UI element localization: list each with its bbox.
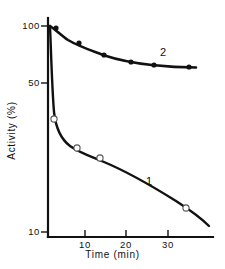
curve-2-line <box>50 26 196 68</box>
curve-1-point <box>97 155 103 161</box>
y-tick-label-100: 100 <box>8 20 40 31</box>
semilog-decay-chart: 100 50 10 10 20 30 Time (min) Activity (… <box>0 0 225 269</box>
curve-2-point <box>101 52 106 57</box>
curve-1-point <box>51 116 57 122</box>
curve-2-point <box>151 62 156 67</box>
curve-1-point <box>183 205 189 211</box>
curve-2-point <box>53 25 58 30</box>
curve-1-line <box>50 26 209 226</box>
curve-1-point <box>74 145 80 151</box>
curve-2-point <box>76 40 81 45</box>
curve-label-1: 1 <box>146 175 152 187</box>
y-tick-label-10: 10 <box>8 226 40 237</box>
curve-2-point <box>186 64 191 69</box>
curve-label-2: 2 <box>160 46 166 58</box>
x-axis-title: Time (min) <box>0 249 225 260</box>
curve-2-point <box>128 59 133 64</box>
y-axis-title: Activity (%) <box>6 81 17 181</box>
